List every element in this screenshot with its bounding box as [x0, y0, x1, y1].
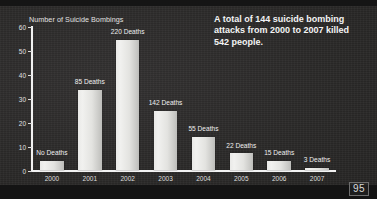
- bar[interactable]: [192, 137, 215, 170]
- bar-value-label: 15 Deaths: [264, 150, 294, 157]
- bar[interactable]: [267, 161, 290, 170]
- bar-slot[interactable]: No Deaths2000: [40, 26, 63, 170]
- x-axis-category-label: 2003: [158, 176, 172, 183]
- bar-value-label: 22 Deaths: [226, 143, 256, 150]
- bar[interactable]: [40, 161, 63, 170]
- bar[interactable]: [116, 40, 139, 170]
- y-axis-tick-label: 20: [0, 121, 31, 128]
- bar-slot[interactable]: 220 Deaths2002: [116, 26, 139, 170]
- x-axis-category-label: 2007: [310, 176, 324, 183]
- y-axis-tick-label: 40: [0, 73, 31, 80]
- y-axis-tick-label: 30: [0, 97, 31, 104]
- bar-value-label: 3 Deaths: [304, 157, 330, 164]
- page-number: 95: [349, 182, 369, 196]
- bar-value-label: 142 Deaths: [149, 100, 183, 107]
- x-axis-line: [31, 170, 336, 172]
- caption-text: A total of 144 suicide bombing attacks f…: [214, 14, 366, 48]
- x-axis-category-label: 2004: [196, 176, 210, 183]
- bar[interactable]: [154, 111, 177, 170]
- bar[interactable]: [230, 153, 253, 170]
- bar-value-label: 85 Deaths: [75, 79, 105, 86]
- top-letterbox-band: [0, 0, 377, 6]
- y-axis-tick-label: 10: [0, 145, 31, 152]
- y-axis-tick-label: 60: [0, 25, 31, 32]
- chart-page: Number of Suicide Bombings 0102030405060…: [0, 0, 377, 199]
- bottom-letterbox-band: [0, 185, 377, 199]
- bar-value-label: No Deaths: [36, 150, 67, 157]
- bar[interactable]: [305, 168, 328, 170]
- y-axis-tick-label: 0: [0, 169, 31, 176]
- y-axis-tick-label: 50: [0, 49, 31, 56]
- bar-value-label: 55 Deaths: [188, 126, 218, 133]
- bar-slot[interactable]: 55 Deaths2004: [192, 26, 215, 170]
- y-axis-title: Number of Suicide Bombings: [29, 15, 123, 24]
- bar-slot[interactable]: 85 Deaths2001: [78, 26, 101, 170]
- bar-value-label: 220 Deaths: [111, 29, 145, 36]
- x-axis-category-label: 2000: [45, 176, 59, 183]
- x-axis-category-label: 2002: [120, 176, 134, 183]
- bar-slot[interactable]: 142 Deaths2003: [154, 26, 177, 170]
- bar[interactable]: [78, 90, 101, 170]
- x-axis-category-label: 2001: [83, 176, 97, 183]
- x-axis-category-label: 2006: [272, 176, 286, 183]
- x-axis-category-label: 2005: [234, 176, 248, 183]
